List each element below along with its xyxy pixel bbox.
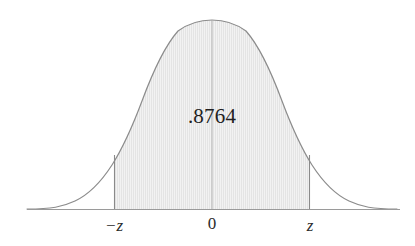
normal-distribution-figure: .8764 −z 0 z	[0, 0, 415, 246]
shaded-area-value-label: .8764	[188, 104, 236, 129]
x-tick-label-positive-z: z	[307, 216, 314, 236]
x-tick-label-negative-z: −z	[105, 216, 123, 236]
x-tick-label-zero: 0	[208, 214, 217, 234]
